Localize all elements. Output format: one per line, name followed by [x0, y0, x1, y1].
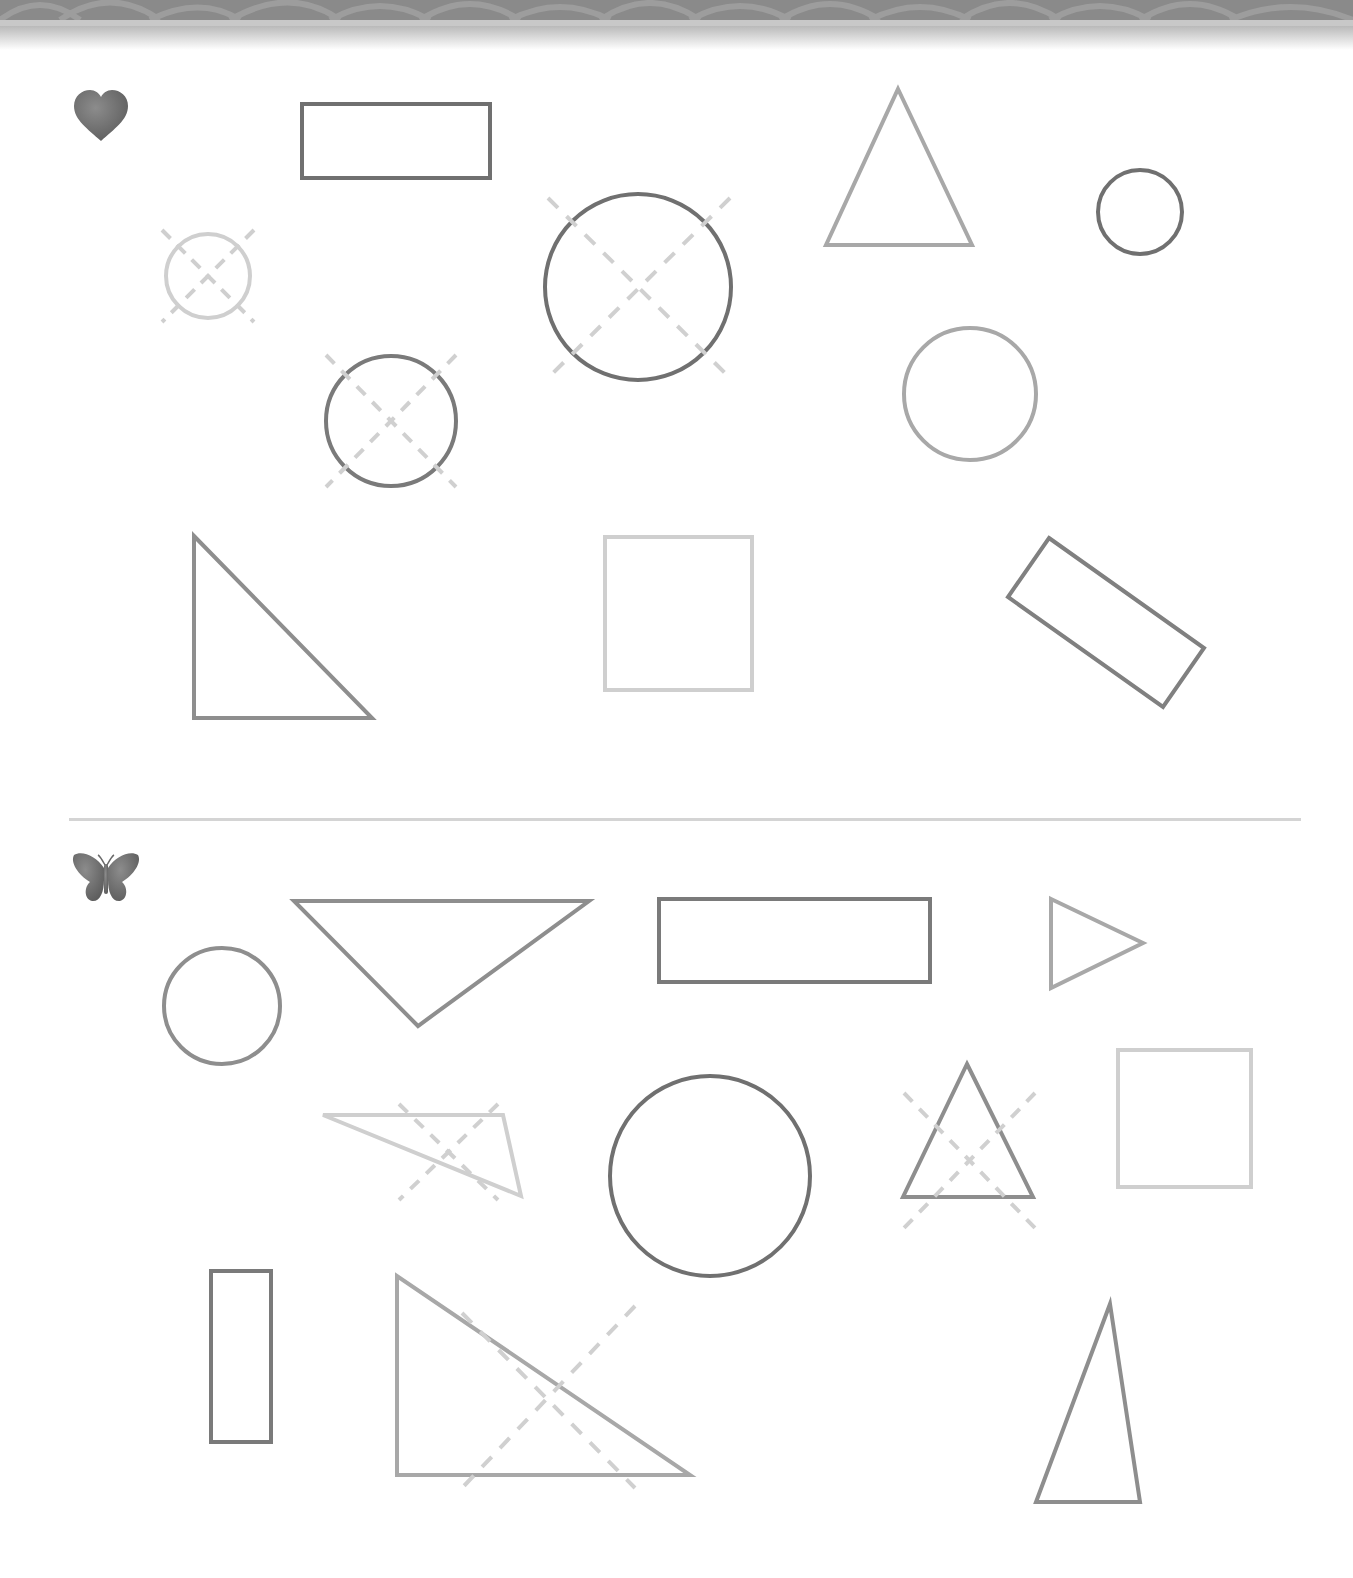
shape-triangle-right-pointing[interactable]: [1051, 899, 1143, 988]
shape-triangle-crossed[interactable]: [323, 1104, 521, 1200]
shape-circle-large[interactable]: [610, 1076, 810, 1276]
shape-right-triangle[interactable]: [194, 536, 372, 718]
shape-circle-crossed[interactable]: [545, 194, 731, 380]
shape-triangle-crossed[interactable]: [903, 1064, 1035, 1228]
shape-circle[interactable]: [164, 948, 280, 1064]
butterfly-icon: [73, 853, 139, 901]
shape-rectangle[interactable]: [302, 104, 490, 178]
section-heart: [74, 89, 1204, 718]
shape-circle-crossed[interactable]: [162, 230, 254, 322]
shape-circle[interactable]: [904, 328, 1036, 460]
shape-square[interactable]: [605, 537, 752, 690]
cross-mark: [548, 198, 730, 378]
shape-triangle-inverted[interactable]: [294, 901, 589, 1026]
heart-icon: [74, 90, 128, 141]
cross-mark: [326, 355, 456, 487]
section-butterfly: [73, 853, 1251, 1502]
shapes-worksheet: [0, 0, 1353, 1578]
shape-rectangle[interactable]: [659, 899, 930, 982]
shape-right-triangle-crossed[interactable]: [397, 1276, 690, 1488]
shape-rectangle-rotated[interactable]: [1008, 538, 1204, 707]
shape-square[interactable]: [1118, 1050, 1251, 1187]
shape-circle-small[interactable]: [1098, 170, 1182, 254]
shape-triangle[interactable]: [826, 89, 972, 245]
shape-rectangle-tall[interactable]: [211, 1271, 271, 1442]
section-divider: [69, 818, 1301, 821]
shape-triangle-tall[interactable]: [1036, 1304, 1140, 1502]
shape-circle-crossed[interactable]: [326, 355, 456, 487]
cross-mark: [462, 1306, 635, 1488]
cross-mark: [162, 230, 254, 322]
